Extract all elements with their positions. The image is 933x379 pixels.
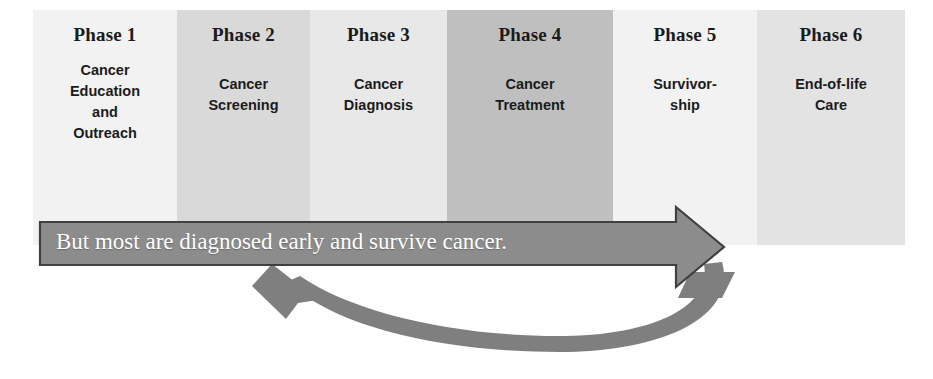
phase-body-line: Care — [761, 95, 901, 116]
phase-body: Survivor- ship — [613, 74, 757, 116]
phase-column-1[interactable]: Phase 1 Cancer Education and Outreach — [33, 10, 177, 245]
phase-body-line: Survivor- — [617, 74, 753, 95]
phase-body-line: Cancer — [314, 74, 443, 95]
phase-body-line: and — [37, 102, 173, 123]
phase-title: Phase 1 — [73, 24, 136, 46]
phase-title: Phase 6 — [799, 24, 862, 46]
phase-body-line: Cancer — [451, 74, 609, 95]
phase-body-line: Screening — [181, 95, 306, 116]
banner-label: But most are diagnosed early and survive… — [56, 228, 696, 256]
cancer-care-continuum-diagram: Phase 1 Cancer Education and Outreach Ph… — [0, 0, 933, 379]
phase-title: Phase 4 — [498, 24, 561, 46]
phase-title: Phase 2 — [212, 24, 275, 46]
phase-body: End-of-life Care — [757, 74, 905, 116]
phase-body-line: Cancer — [37, 60, 173, 81]
phase-body: Cancer Treatment — [447, 74, 613, 116]
phase-column-4[interactable]: Phase 4 Cancer Treatment — [447, 10, 613, 245]
phase-body-line: Diagnosis — [314, 95, 443, 116]
phase-body: Cancer Education and Outreach — [33, 60, 177, 144]
phase-body: Cancer Diagnosis — [310, 74, 447, 116]
phase-body-line: Education — [37, 81, 173, 102]
phase-body-line: ship — [617, 95, 753, 116]
phase-body-line: Treatment — [451, 95, 609, 116]
phase-column-5[interactable]: Phase 5 Survivor- ship — [613, 10, 757, 245]
phase-body-line: End-of-life — [761, 74, 901, 95]
phase-body: Cancer Screening — [177, 74, 310, 116]
phase-title: Phase 3 — [347, 24, 410, 46]
phase-body-line: Outreach — [37, 123, 173, 144]
phase-column-3[interactable]: Phase 3 Cancer Diagnosis — [310, 10, 447, 245]
phase-column-6[interactable]: Phase 6 End-of-life Care — [757, 10, 905, 245]
phase-column-2[interactable]: Phase 2 Cancer Screening — [177, 10, 310, 245]
phase-body-line: Cancer — [181, 74, 306, 95]
phase-title: Phase 5 — [653, 24, 716, 46]
return-loop-arrow — [252, 262, 724, 352]
